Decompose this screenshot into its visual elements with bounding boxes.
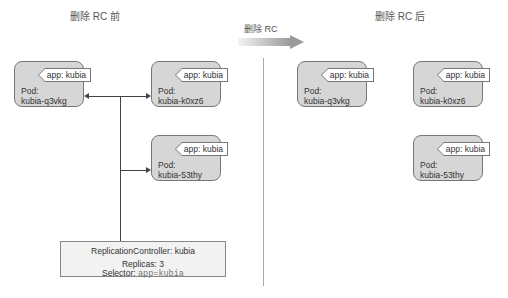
section-divider	[263, 58, 264, 286]
connector-horizontal-top	[88, 96, 147, 97]
before-title: 删除 RC 前	[70, 8, 120, 23]
pod-label-tag: app: kubia	[45, 68, 91, 82]
after-pod-kubia-q3vkg[interactable]: app: kubia Pod: kubia-q3vkg	[297, 61, 367, 107]
connector-horizontal-bottom	[120, 170, 147, 171]
pod-name: kubia-q3vkg	[304, 96, 350, 106]
pod-kind: Pod:	[158, 86, 176, 96]
after-pod-kubia-53thy[interactable]: app: kubia Pod: kubia-53thy	[413, 135, 483, 181]
pod-label-tag: app: kubia	[444, 68, 490, 82]
pod-label-tag: app: kubia	[182, 142, 228, 156]
after-title: 删除 RC 后	[375, 8, 425, 23]
transition-arrow-icon	[238, 35, 304, 53]
transition-label: 删除 RC	[244, 22, 278, 35]
arrow-to-pod-1-icon	[84, 93, 89, 99]
pod-label-tag: app: kubia	[328, 68, 374, 82]
rc-selector-value: app=kubia	[138, 269, 184, 279]
rc-selector: Selector: app=kubia	[61, 268, 225, 279]
connector-vertical	[120, 96, 121, 241]
rc-selector-label: Selector:	[102, 268, 136, 278]
before-pod-kubia-q3vkg[interactable]: app: kubia Pod: kubia-q3vkg	[14, 61, 84, 107]
pod-kind: Pod:	[304, 86, 322, 96]
before-pod-kubia-k0xz6[interactable]: app: kubia Pod: kubia-k0xz6	[151, 61, 221, 107]
pod-name: kubia-q3vkg	[21, 96, 67, 106]
pod-name: kubia-53thy	[420, 170, 464, 180]
pod-kind: Pod:	[420, 160, 438, 170]
pod-name: kubia-k0xz6	[420, 96, 465, 106]
pod-name: kubia-53thy	[158, 170, 202, 180]
pod-kind: Pod:	[158, 160, 176, 170]
pod-kind: Pod:	[21, 86, 39, 96]
pod-name: kubia-k0xz6	[158, 96, 203, 106]
after-pod-kubia-k0xz6[interactable]: app: kubia Pod: kubia-k0xz6	[413, 61, 483, 107]
replication-controller-box[interactable]: ReplicationController: kubia Replicas: 3…	[60, 241, 226, 277]
pod-label-tag: app: kubia	[444, 142, 490, 156]
before-pod-kubia-53thy[interactable]: app: kubia Pod: kubia-53thy	[151, 135, 221, 181]
rc-title: ReplicationController: kubia	[61, 246, 225, 256]
pod-kind: Pod:	[420, 86, 438, 96]
pod-label-tag: app: kubia	[182, 68, 228, 82]
